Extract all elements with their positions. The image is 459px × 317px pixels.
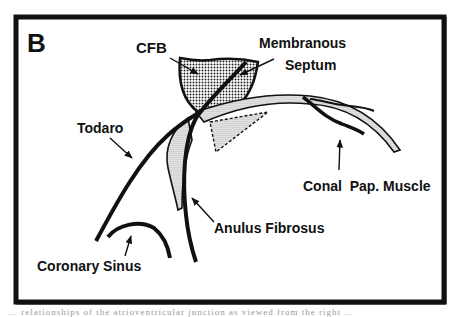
label-septum: Septum — [285, 57, 336, 73]
label-todaro: Todaro — [77, 120, 123, 136]
coronary-sinus-arc — [108, 224, 170, 258]
label-membranous: Membranous — [259, 35, 346, 51]
todaro-arrow — [110, 138, 132, 158]
label-anulus-fibrosus: Anulus Fibrosus — [214, 220, 325, 236]
label-conal-pap-muscle: Conal Pap. Muscle — [303, 178, 431, 194]
conal-arrow — [339, 140, 340, 170]
coronary-arrow — [125, 236, 131, 256]
caption-fragment: … relationships of the atrioventricular … — [8, 307, 458, 317]
label-cfb: CFB — [136, 39, 167, 56]
anatomy-diagram: B CFB Membranous Septum Todaro Conal Pap… — [0, 0, 459, 317]
dashed-triangle — [210, 112, 268, 152]
panel-label: B — [27, 28, 46, 58]
label-coronary-sinus: Coronary Sinus — [37, 258, 141, 274]
anulus-arrow — [192, 198, 214, 222]
